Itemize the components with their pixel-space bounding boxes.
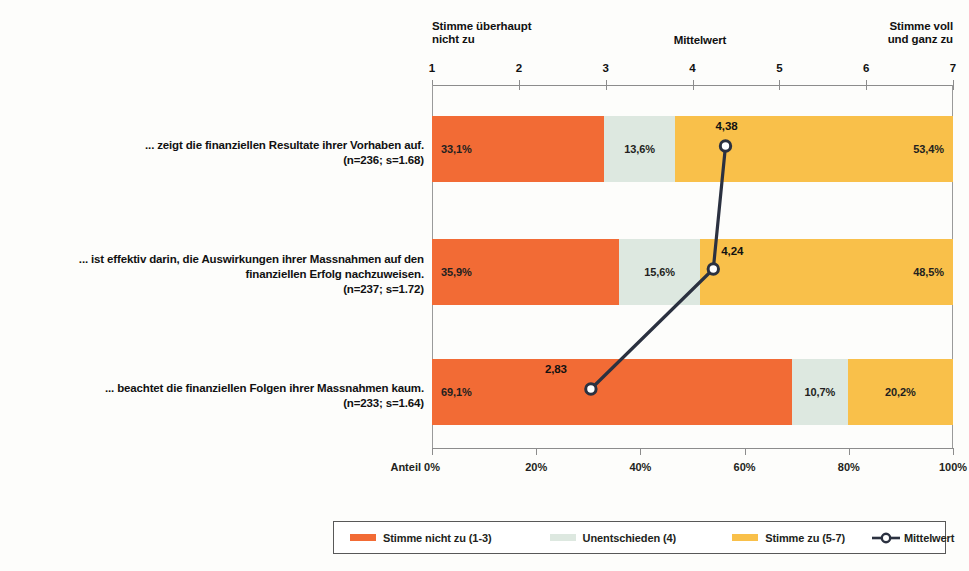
category-label: ... ist effektiv darin, die Auswirkungen… bbox=[24, 252, 424, 297]
bar-segment-pos: 20,2% bbox=[848, 359, 953, 425]
bottom-axis-tickmark-100% bbox=[953, 448, 954, 455]
bottom-axis-tick-60%: 60% bbox=[725, 461, 765, 473]
bar-segment-value: 53,4% bbox=[913, 143, 944, 155]
bar-segment-value: 10,7% bbox=[805, 386, 836, 398]
category-label-stats: (n=236; s=1.68) bbox=[24, 153, 424, 168]
mean-value-label: 2,83 bbox=[545, 363, 567, 375]
stacked-bar: 33,1%13,6%53,4% bbox=[432, 116, 953, 182]
top-axis-caption-left: Stimme überhaupt nicht zu bbox=[432, 20, 531, 46]
bar-row: 35,9%15,6%48,5% bbox=[432, 239, 953, 305]
bar-segment-neu: 10,7% bbox=[792, 359, 848, 425]
top-axis-tick-3: 3 bbox=[591, 62, 621, 74]
bar-row: 33,1%13,6%53,4% bbox=[432, 116, 953, 182]
plot-bottom-axis-line bbox=[432, 448, 953, 449]
legend-items: Stimme nicht zu (1-3)Unentschieden (4)St… bbox=[334, 532, 845, 544]
bottom-axis-tickmark-0% bbox=[432, 448, 433, 455]
bar-segment-neg: 33,1% bbox=[432, 116, 604, 182]
bar-segment-neg: 35,9% bbox=[432, 239, 619, 305]
legend-label: Stimme nicht zu (1-3) bbox=[383, 532, 492, 544]
mean-value-label: 4,38 bbox=[715, 120, 737, 132]
bottom-axis-tickmark-20% bbox=[536, 448, 537, 455]
category-label: ... zeigt die finanziellen Resultate ihr… bbox=[24, 138, 424, 168]
category-label-text: ... beachtet die finanziellen Folgen ihr… bbox=[24, 381, 424, 396]
top-axis-caption-right: Stimme voll und ganz zu bbox=[860, 20, 953, 46]
legend: Stimme nicht zu (1-3)Unentschieden (4)St… bbox=[333, 521, 946, 554]
legend-item: Stimme zu (5-7) bbox=[732, 532, 845, 544]
stacked-bar: 69,1%10,7%20,2% bbox=[432, 359, 953, 425]
top-axis-caption-left-line2: nicht zu bbox=[432, 33, 475, 45]
legend-label: Stimme zu (5-7) bbox=[765, 532, 845, 544]
legend-swatch bbox=[350, 534, 376, 541]
bottom-axis-tick-40%: 40% bbox=[620, 461, 660, 473]
top-axis-tick-4: 4 bbox=[678, 62, 708, 74]
mean-value-label: 4,24 bbox=[721, 245, 743, 257]
bar-segment-value: 69,1% bbox=[441, 386, 472, 398]
legend-item: Stimme nicht zu (1-3) bbox=[350, 532, 492, 544]
top-axis-caption-right-line1: Stimme voll bbox=[890, 20, 953, 32]
bottom-axis-tickmark-60% bbox=[745, 448, 746, 455]
top-axis-tickmark-7 bbox=[953, 80, 954, 90]
bar-segment-neu: 13,6% bbox=[604, 116, 675, 182]
bar-segment-value: 15,6% bbox=[644, 266, 675, 278]
bar-segment-value: 48,5% bbox=[913, 266, 944, 278]
legend-label: Unentschieden (4) bbox=[583, 532, 677, 544]
category-label-text-cont: finanziellen Erfolg nachzuweisen. bbox=[24, 267, 424, 282]
bar-segment-value: 33,1% bbox=[441, 143, 472, 155]
bottom-axis-tickmark-80% bbox=[849, 448, 850, 455]
bottom-axis-tick-20%: 20% bbox=[516, 461, 556, 473]
legend-swatch bbox=[550, 534, 576, 541]
top-axis-tick-1: 1 bbox=[417, 62, 447, 74]
cropped-title-remnant bbox=[0, 0, 969, 9]
chart-canvas: Stimme überhaupt nicht zu Mittelwert Sti… bbox=[0, 0, 969, 571]
bottom-axis-tick-100%: 100% bbox=[933, 461, 969, 473]
legend-item-mittelwert: Mittelwert bbox=[871, 531, 954, 545]
top-axis-caption-right-line2: und ganz zu bbox=[888, 33, 953, 45]
category-label-stats: (n=233; s=1.64) bbox=[24, 396, 424, 411]
top-axis-title: Mittelwert bbox=[620, 34, 780, 47]
category-label-text: ... zeigt die finanziellen Resultate ihr… bbox=[24, 138, 424, 153]
bar-segment-value: 13,6% bbox=[624, 143, 655, 155]
top-axis-tick-5: 5 bbox=[764, 62, 794, 74]
bar-row: 69,1%10,7%20,2% bbox=[432, 359, 953, 425]
stacked-bar: 35,9%15,6%48,5% bbox=[432, 239, 953, 305]
bottom-axis-tick-80%: 80% bbox=[829, 461, 869, 473]
top-axis-tick-2: 2 bbox=[504, 62, 534, 74]
category-label-stats: (n=237; s=1.72) bbox=[24, 282, 424, 297]
top-axis-tick-6: 6 bbox=[851, 62, 881, 74]
legend-item: Unentschieden (4) bbox=[550, 532, 677, 544]
bottom-axis-tickmark-40% bbox=[640, 448, 641, 455]
category-label-text: ... ist effektiv darin, die Auswirkungen… bbox=[24, 252, 424, 267]
top-axis-caption-left-line1: Stimme überhaupt bbox=[432, 20, 531, 32]
bar-segment-value: 20,2% bbox=[885, 386, 916, 398]
bar-segment-value: 35,9% bbox=[441, 266, 472, 278]
category-label: ... beachtet die finanziellen Folgen ihr… bbox=[24, 381, 424, 411]
bar-segment-neg: 69,1% bbox=[432, 359, 792, 425]
legend-swatch bbox=[732, 534, 758, 541]
bar-segment-neu: 15,6% bbox=[619, 239, 700, 305]
bottom-axis-tick-0%: 0% bbox=[412, 461, 452, 473]
mean-marker-icon bbox=[871, 531, 901, 545]
top-axis-tick-7: 7 bbox=[938, 62, 968, 74]
legend-label-mittelwert: Mittelwert bbox=[904, 532, 954, 544]
